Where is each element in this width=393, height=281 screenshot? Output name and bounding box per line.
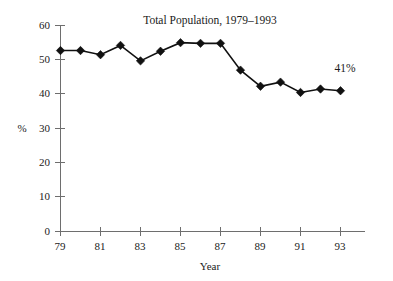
x-tick-label-93: 93 xyxy=(335,240,347,252)
data-point-91 xyxy=(296,88,304,96)
line-chart: Total Population, 1979–1993 60 50 40 30 … xyxy=(0,0,393,281)
x-tick-label-79: 79 xyxy=(55,240,67,252)
data-point-92 xyxy=(316,85,324,93)
y-tick-label-30: 30 xyxy=(39,122,51,134)
x-axis-title: Year xyxy=(200,260,221,272)
data-point-79 xyxy=(56,46,64,54)
y-tick-label-50: 50 xyxy=(39,53,51,65)
y-tick-label-20: 20 xyxy=(39,156,51,168)
x-tick-label-87: 87 xyxy=(215,240,227,252)
y-tick-label-10: 10 xyxy=(39,190,51,202)
x-tick-label-89: 89 xyxy=(255,240,267,252)
data-point-81 xyxy=(96,50,104,58)
data-point-90 xyxy=(276,78,284,86)
y-tick-label-0: 0 xyxy=(45,225,51,237)
x-axis-tick-labels: 79 81 83 85 87 89 91 93 xyxy=(55,240,347,252)
y-axis-title: % xyxy=(17,122,26,134)
series-line-total-population xyxy=(61,43,341,93)
chart-title: Total Population, 1979–1993 xyxy=(143,14,277,27)
x-tick-label-91: 91 xyxy=(295,240,306,252)
x-tick-label-85: 85 xyxy=(175,240,187,252)
series-markers xyxy=(56,38,344,96)
y-tick-label-40: 40 xyxy=(39,87,51,99)
last-value-annotation: 41% xyxy=(334,62,356,74)
x-tick-label-81: 81 xyxy=(95,240,106,252)
data-point-80 xyxy=(76,46,84,54)
x-tick-label-83: 83 xyxy=(135,240,147,252)
data-point-86 xyxy=(196,39,204,47)
y-tick-label-60: 60 xyxy=(39,19,51,31)
data-point-85 xyxy=(176,38,184,46)
y-axis-tick-labels: 60 50 40 30 20 10 0 xyxy=(39,19,51,237)
data-point-84 xyxy=(156,47,164,55)
data-point-93 xyxy=(336,87,344,95)
chart-container: Total Population, 1979–1993 60 50 40 30 … xyxy=(0,0,393,281)
